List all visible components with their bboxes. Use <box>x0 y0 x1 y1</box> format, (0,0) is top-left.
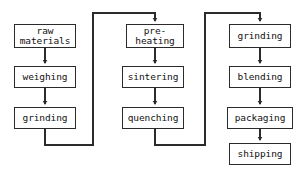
node-packaging[interactable]: packaging <box>227 107 293 129</box>
node-sintering[interactable]: sintering <box>122 66 184 88</box>
node-shipping-label: shipping <box>238 149 283 159</box>
node-packaging-label: packaging <box>235 113 286 123</box>
node-raw-materials[interactable]: raw materials <box>14 24 76 48</box>
node-blending-label: blending <box>238 72 283 82</box>
node-sintering-label: sintering <box>128 72 179 82</box>
node-weighing[interactable]: weighing <box>14 66 76 88</box>
flowchart-canvas: raw materials weighing grinding pre- hea… <box>0 0 304 172</box>
node-blending[interactable]: blending <box>229 66 291 88</box>
node-grinding-1-label: grinding <box>23 113 68 123</box>
node-weighing-label: weighing <box>23 72 68 82</box>
node-raw-materials-label: raw materials <box>20 26 71 46</box>
node-pre-heating-label: pre- heating <box>135 26 174 46</box>
node-shipping[interactable]: shipping <box>229 143 291 165</box>
node-quenching-label: quenching <box>128 113 179 123</box>
node-grinding-2-label: grinding <box>238 31 283 41</box>
node-pre-heating[interactable]: pre- heating <box>126 24 184 48</box>
node-grinding-2[interactable]: grinding <box>229 24 291 48</box>
node-quenching[interactable]: quenching <box>122 107 184 129</box>
node-grinding-1[interactable]: grinding <box>14 107 76 129</box>
